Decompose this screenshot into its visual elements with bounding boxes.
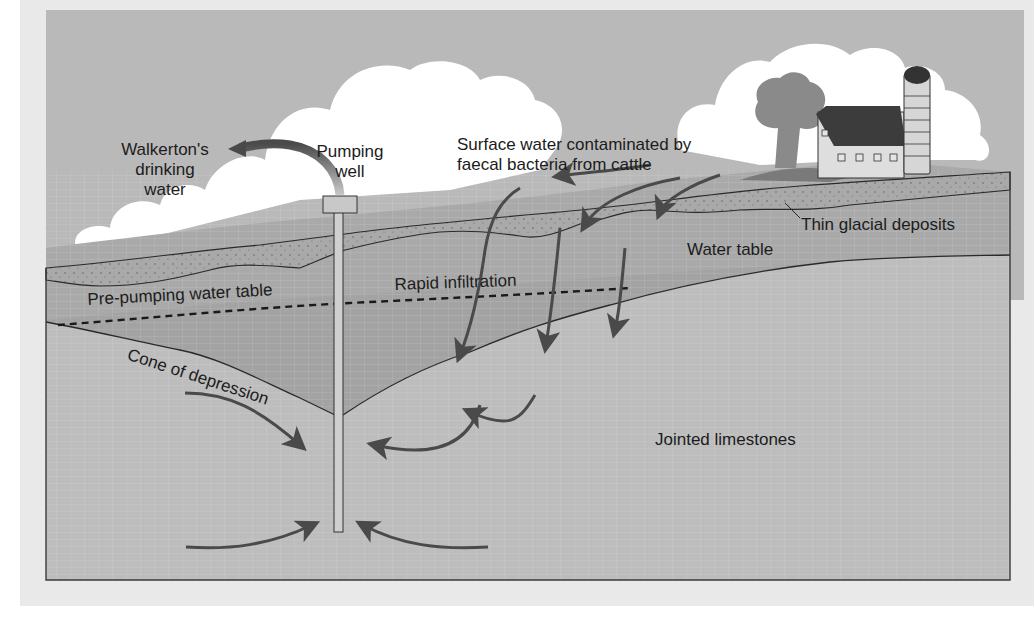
label-line: Pumping xyxy=(305,142,395,162)
water-table-label: Water table xyxy=(687,240,773,260)
jointed-limestones-label: Jointed limestones xyxy=(655,430,796,450)
pumping-well-label: Pumping well xyxy=(305,142,395,182)
label-line: water xyxy=(105,180,225,200)
silo xyxy=(904,74,930,174)
label-line: Walkerton's xyxy=(105,140,225,160)
walkerton-drinking-water-label: Walkerton's drinking water xyxy=(105,140,225,200)
thin-glacial-deposits-label: Thin glacial deposits xyxy=(801,215,955,235)
rapid-infiltration-label: Rapid infiltration xyxy=(394,271,517,295)
label-line: drinking xyxy=(105,160,225,180)
well-head xyxy=(323,196,357,213)
well-pipe xyxy=(334,212,343,532)
label-line: well xyxy=(305,162,395,182)
cross-section-diagram xyxy=(0,0,1034,620)
surface-water-label: Surface water contaminated by faecal bac… xyxy=(457,135,691,175)
label-line: faecal bacteria from cattle xyxy=(457,155,691,175)
label-line: Surface water contaminated by xyxy=(457,135,691,155)
